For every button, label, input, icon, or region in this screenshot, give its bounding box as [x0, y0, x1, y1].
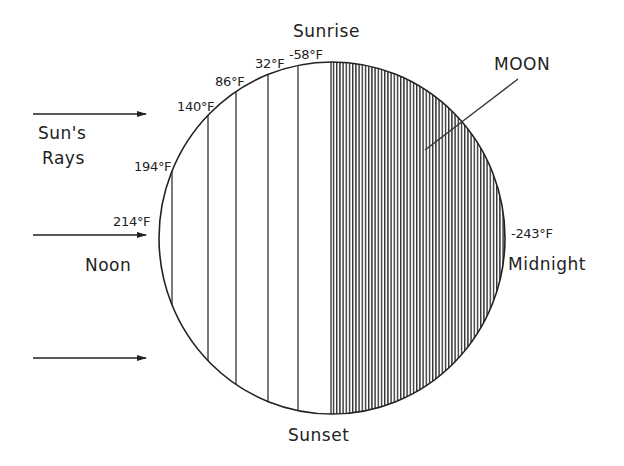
temp-label-minus243: -243°F — [511, 227, 553, 240]
temp-label-32: 32°F — [255, 57, 284, 70]
sunrise-label: Sunrise — [293, 23, 360, 40]
temp-label-140: 140°F — [177, 100, 214, 113]
moon-title-label: MOON — [494, 56, 550, 73]
temp-label-86: 86°F — [215, 75, 244, 88]
temp-label-214: 214°F — [113, 215, 150, 228]
sunset-label: Sunset — [288, 427, 349, 444]
midnight-label: Midnight — [508, 256, 586, 273]
moon-night-side-hatching — [331, 50, 521, 430]
noon-label: Noon — [85, 257, 131, 274]
sun-rays-label-line1: Sun's — [38, 125, 86, 142]
sun-rays-label-line2: Rays — [42, 150, 85, 167]
temp-label-194: 194°F — [134, 160, 171, 173]
temp-label-minus58: -58°F — [289, 48, 323, 61]
